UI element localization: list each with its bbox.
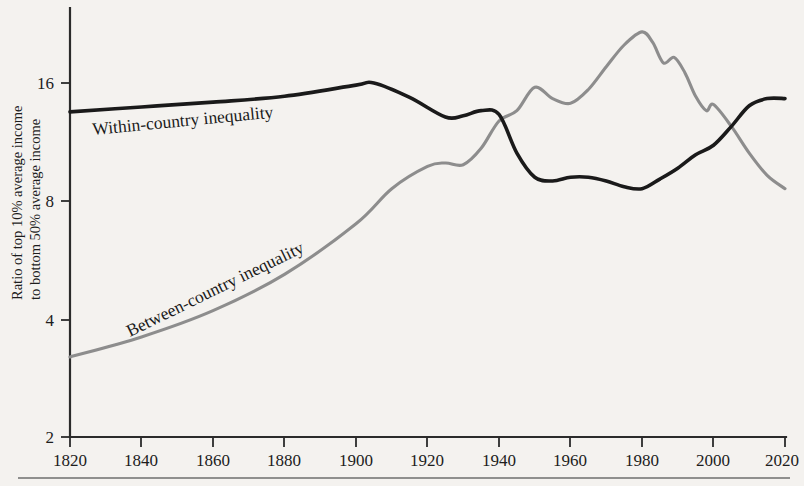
y-axis-title-line1: Ratio of top 10% average income (9, 106, 25, 300)
x-tick-label-1940: 1940 (482, 451, 516, 470)
x-tick-label-1880: 1880 (267, 451, 301, 470)
x-tick-label-1820: 1820 (53, 451, 87, 470)
x-tick-label-1920: 1920 (410, 451, 444, 470)
x-tick-label-1840: 1840 (124, 451, 158, 470)
y-axis-title-line2: to bottom 50% average income (27, 119, 43, 300)
x-tick-label-1900: 1900 (339, 451, 373, 470)
y-tick-label-16: 16 (37, 74, 54, 93)
x-tick-label-2000: 2000 (696, 451, 730, 470)
y-tick-label-4: 4 (46, 311, 55, 330)
y-tick-label-2: 2 (46, 428, 55, 447)
x-tick-label-1980: 1980 (625, 451, 659, 470)
inequality-chart: 16 8 4 2 1820 1840 1860 1880 1900 1920 1… (0, 0, 804, 486)
x-tick-label-1960: 1960 (553, 451, 587, 470)
y-tick-label-8: 8 (46, 192, 55, 211)
x-tick-label-1860: 1860 (196, 451, 230, 470)
x-tick-label-2020: 2020 (765, 451, 799, 470)
